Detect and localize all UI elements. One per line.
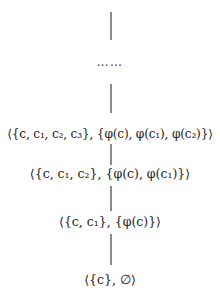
node-label: ⟨{c, c₁, c₂, c₃}, {φ(c), φ(c₁), φ(c₂)}⟩: [6, 127, 214, 141]
node-c-c1-c2-c3: ⟨{c, c₁, c₂, c₃}, {φ(c), φ(c₁), φ(c₂)}⟩: [0, 126, 220, 142]
node-label: ⟨{c, c₁, c₂}, {φ(c), φ(c₁)}⟩: [29, 166, 191, 181]
edge-n1-to-n2: [110, 144, 112, 165]
edge-n3-to-n4: [110, 234, 112, 265]
edge-ellipsis-to-n1: [110, 84, 112, 113]
node-label: ⟨{c}, ∅⟩: [83, 272, 137, 287]
node-c-c1: ⟨{c, c₁}, {φ(c)}⟩: [0, 214, 220, 230]
node-label: ⟨{c, c₁}, {φ(c)}⟩: [58, 214, 162, 229]
edge-n2-to-n3: [110, 186, 112, 211]
edge-top-line: [110, 12, 112, 40]
node-c: ⟨{c}, ∅⟩: [0, 272, 220, 288]
node-c-c1-c2: ⟨{c, c₁, c₂}, {φ(c), φ(c₁)}⟩: [0, 166, 220, 182]
ellipsis-dots: ……: [0, 56, 220, 68]
